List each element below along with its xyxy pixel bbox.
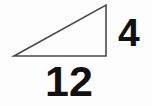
right-triangle-shape [14, 5, 106, 56]
height-dimension-label: 4 [118, 13, 140, 52]
base-dimension-label: 12 [45, 60, 93, 103]
triangle-figure: 4 12 [0, 0, 152, 106]
